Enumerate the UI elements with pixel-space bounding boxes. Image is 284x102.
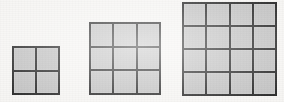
grid-cell (184, 73, 205, 94)
grid-cell (14, 48, 35, 70)
grid-cell (231, 4, 252, 25)
grid-cell (254, 50, 275, 71)
grid-cell (207, 4, 228, 25)
grid-cell (138, 48, 159, 70)
grid-3x3 (89, 22, 161, 95)
grid-4x4 (182, 2, 277, 96)
grid-cell (231, 73, 252, 94)
grid-cell (91, 48, 112, 70)
grid-cell (91, 24, 112, 46)
grid-cell (254, 27, 275, 48)
grid-cell (114, 48, 135, 70)
grid-cell (14, 72, 35, 94)
figure-canvas (0, 0, 284, 102)
grid-cell (207, 73, 228, 94)
grid-cell (231, 27, 252, 48)
grid-cell (37, 72, 58, 94)
grid-cell (37, 48, 58, 70)
grid-cell (184, 50, 205, 71)
grid-cell (91, 71, 112, 93)
grid-cell (254, 4, 275, 25)
grid-cell (207, 50, 228, 71)
grid-cell (254, 73, 275, 94)
grid-cell (184, 27, 205, 48)
grid-cell (231, 50, 252, 71)
grid-cell (114, 71, 135, 93)
grid-cell (184, 4, 205, 25)
grid-cell (138, 71, 159, 93)
grid-cell (207, 27, 228, 48)
grid-cell (114, 24, 135, 46)
grid-cell (138, 24, 159, 46)
grid-2x2 (12, 46, 60, 95)
